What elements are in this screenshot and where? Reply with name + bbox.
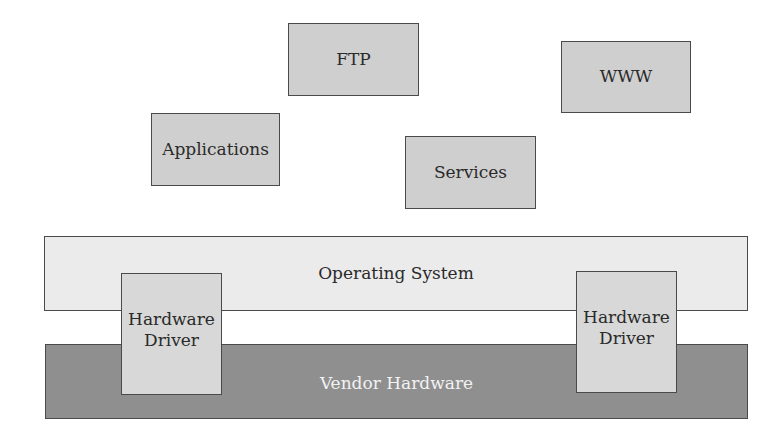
- services-label: Services: [434, 162, 507, 183]
- hardware-driver-right-line1: Hardware: [583, 307, 670, 328]
- services-box: Services: [405, 136, 536, 209]
- www-label: WWW: [600, 66, 652, 87]
- hardware-driver-left-line2: Driver: [144, 330, 199, 351]
- hardware-driver-left: Hardware Driver: [121, 273, 222, 395]
- hardware-driver-left-line1: Hardware: [128, 309, 215, 330]
- www-box: WWW: [561, 41, 691, 113]
- vendor-hardware-label: Vendor Hardware: [320, 373, 473, 394]
- hardware-driver-right-line2: Driver: [599, 328, 654, 349]
- hardware-driver-right: Hardware Driver: [576, 271, 677, 393]
- ftp-box: FTP: [288, 23, 419, 96]
- operating-system-label: Operating System: [318, 263, 474, 284]
- applications-label: Applications: [162, 139, 269, 160]
- ftp-label: FTP: [336, 49, 371, 70]
- applications-box: Applications: [151, 113, 280, 186]
